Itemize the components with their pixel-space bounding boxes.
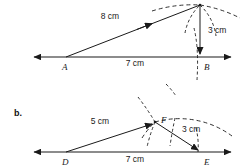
vertex-apex-dot [199,4,202,7]
vertex-label-e: E [203,157,210,167]
vertex-label-b: B [204,62,210,72]
dimension-label-3cm-a: 3 cm [208,25,226,35]
construction-tick-upper [166,84,176,96]
arc-from-d-lower [142,122,155,138]
segment-a-to-apex-direction-arrow [137,24,152,30]
segment-a-to-apex [66,5,200,57]
part-b-group: b. D E F 5 cm 7 cm 3 cm [14,84,232,167]
construction-arc-through-b [194,28,198,80]
geometry-figure: A B 8 cm 7 cm 3 cm [0,0,244,168]
segment-d-to-f [66,124,152,152]
dimension-label-7cm-a: 7 cm [126,58,144,68]
arc-from-b-radius-3cm [185,5,200,33]
vertex-label-f: F [160,115,167,125]
part-label-b: b. [14,108,22,118]
vertex-f-dot [154,121,157,124]
dimension-label-7cm-b: 7 cm [126,154,144,164]
part-a-group: A B 8 cm 7 cm 3 cm [34,4,240,80]
vertex-label-a: A [61,62,68,72]
arc-from-e-upper-left [138,97,155,122]
dimension-label-3cm-b: 3 cm [182,124,200,134]
arc-from-a-extension [200,5,240,18]
vertex-label-d: D [61,157,69,167]
figure-canvas: A B 8 cm 7 cm 3 cm [0,0,244,168]
dimension-label-5cm: 5 cm [91,116,109,126]
dimension-label-8cm: 8 cm [101,11,119,21]
